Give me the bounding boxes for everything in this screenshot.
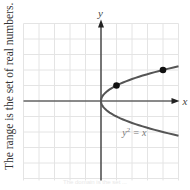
parabola-plot: x y y2 = x	[0, 0, 190, 190]
figure: x y y2 = x The range is the set of real …	[0, 0, 190, 190]
x-axis-label: x	[182, 95, 188, 107]
y-axis-label: y	[97, 7, 103, 19]
data-point	[160, 67, 167, 74]
domain-caption: The domain is the set ...	[0, 179, 190, 185]
data-point	[113, 82, 120, 89]
equation-label: y2 = x	[121, 126, 147, 138]
eq-rest: = x	[130, 127, 147, 138]
range-caption: The range is the set of real numbers.	[2, 10, 16, 170]
